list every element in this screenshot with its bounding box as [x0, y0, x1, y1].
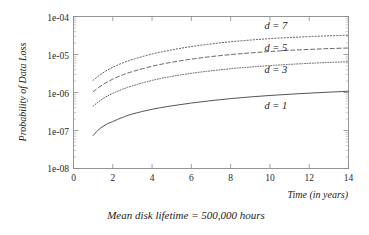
curve-labels: d = 7 d = 5 d = 3 d = 1: [264, 20, 288, 111]
x-tick-label-12: 12: [305, 173, 315, 183]
y-tick-label-1e-08: 1e-08: [47, 164, 69, 174]
x-tick-label-0: 0: [71, 173, 76, 183]
x-axis-title: Time (in years): [287, 189, 348, 201]
x-tick-label-4: 4: [150, 173, 155, 183]
series-group: [93, 35, 348, 135]
x-tick-label-10: 10: [265, 173, 275, 183]
curve-label-d7: d = 7: [264, 20, 288, 31]
probability-of-data-loss-chart: 1e-04 1e-05 1e-06 1e-07 1e-08 0 2 4 6 8 …: [0, 0, 369, 235]
y-tick-label-1e-06: 1e-06: [47, 89, 69, 99]
figure-container: 1e-04 1e-05 1e-06 1e-07 1e-08 0 2 4 6 8 …: [0, 0, 369, 235]
series-line-d5: [93, 48, 348, 92]
curve-label-d3: d = 3: [264, 64, 287, 75]
series-line-d1: [93, 91, 348, 135]
y-tick-label-1e-04: 1e-04: [47, 13, 69, 23]
x-tick-label-14: 14: [344, 173, 354, 183]
series-line-d7: [93, 35, 348, 80]
x-tick-label-8: 8: [228, 173, 233, 183]
x-axis-tick-labels: 0 2 4 6 8 10 12 14: [71, 173, 353, 183]
y-axis-title: Probability of Data Loss: [17, 42, 28, 142]
y-tick-label-1e-05: 1e-05: [47, 51, 69, 61]
y-axis-minor-ticks: [74, 18, 349, 157]
curve-label-d1: d = 1: [264, 100, 287, 111]
x-tick-label-6: 6: [189, 173, 194, 183]
y-axis-tick-labels: 1e-04 1e-05 1e-06 1e-07 1e-08: [47, 13, 69, 175]
curve-label-d5: d = 5: [264, 42, 287, 53]
x-tick-label-2: 2: [110, 173, 115, 183]
figure-caption: Mean disk lifetime = 500,000 hours: [106, 209, 265, 221]
y-tick-label-1e-07: 1e-07: [47, 127, 69, 137]
